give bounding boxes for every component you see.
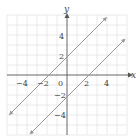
x-tick-4: 4 (104, 79, 109, 88)
y-axis-label: y (63, 4, 70, 14)
y-tick-neg2: −2 (54, 91, 66, 100)
y-tick-4: 4 (59, 32, 64, 41)
y-tick-2: 2 (59, 52, 64, 61)
y-tick-neg4: −4 (54, 111, 66, 120)
x-tick-neg4: −4 (16, 79, 28, 88)
coordinate-plane: y x −4 −2 0 2 4 4 2 −2 −4 (0, 0, 138, 138)
x-tick-0: 0 (58, 79, 63, 88)
line-y-equals-x-plus-2 (9, 17, 107, 115)
x-axis-label: x (131, 70, 136, 80)
x-tick-neg2: −2 (37, 79, 49, 88)
x-tick-2: 2 (84, 79, 89, 88)
